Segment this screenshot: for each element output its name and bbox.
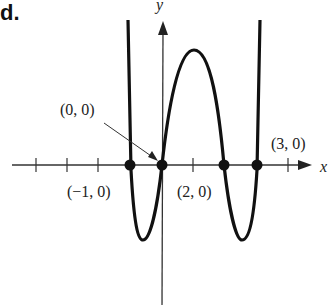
- point-neg-one: [125, 160, 136, 171]
- point-origin: [157, 160, 168, 171]
- label-origin: (0, 0): [60, 101, 95, 119]
- label-two: (2, 0): [177, 183, 212, 201]
- part-label: d.: [0, 0, 20, 25]
- graph-figure: d. x y (0, 0) (−1, 0) (2, 0) (3, 0): [0, 0, 334, 307]
- x-axis-label: x: [319, 158, 327, 175]
- point-three: [252, 160, 263, 171]
- y-axis-label: y: [154, 0, 164, 14]
- x-axis-arrow-icon: [298, 160, 312, 170]
- label-three: (3, 0): [271, 135, 306, 153]
- callout-arrow-icon: [148, 151, 158, 161]
- y-axis-arrow-icon: [158, 21, 168, 35]
- point-two: [219, 160, 230, 171]
- label-neg-one: (−1, 0): [67, 183, 111, 201]
- quartic-curve: [128, 20, 260, 240]
